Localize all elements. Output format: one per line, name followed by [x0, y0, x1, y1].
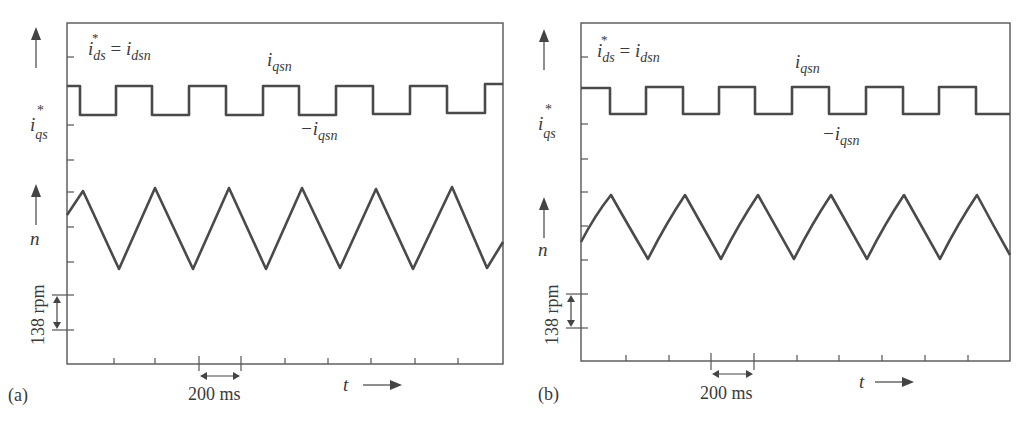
rpm-scale-marker: 138 rpm [28, 285, 61, 346]
rpm-scale-label: 138 rpm [28, 285, 48, 346]
time-scale-label: 200 ms [700, 383, 753, 403]
speed-triangle-wave [581, 195, 1010, 259]
time-scale-marker: 200 ms [188, 372, 241, 404]
iqs-square-wave [581, 87, 1010, 114]
time-scale-marker: 200 ms [700, 370, 753, 403]
svg-text:n: n [538, 239, 548, 260]
svg-text:t: t [343, 374, 349, 395]
speed-axis-label: n [30, 184, 41, 249]
speed-axis-label: n [538, 197, 549, 260]
svg-text:iqs: iqs [30, 114, 48, 142]
iqs-square-wave [67, 84, 503, 115]
svg-text:iqs: iqs [538, 113, 556, 141]
time-axis-label: t [859, 371, 914, 392]
plot-frame [581, 23, 1010, 361]
panel-label-b: (b) [538, 384, 559, 405]
iqsn-low-label: −iqsn [822, 123, 860, 148]
iqsn-high-label: iqsn [267, 49, 292, 74]
rpm-scale-label: 138 rpm [542, 285, 562, 346]
svg-text:*: * [37, 103, 44, 118]
speed-triangle-wave [67, 187, 503, 269]
iqsn-high-label: iqsn [795, 51, 820, 76]
svg-text:t: t [859, 371, 865, 392]
figure: iqs * n ids = idsn * iqsn −iqsn 138 rpm [0, 0, 1034, 429]
iqsn-low-label: −iqsn [300, 118, 338, 143]
y-ticks [566, 57, 588, 328]
iqs-axis-label: iqs * [538, 29, 556, 141]
time-scale-label: 200 ms [188, 384, 241, 404]
panel-a: iqs * n ids = idsn * iqsn −iqsn 138 rpm [8, 23, 503, 406]
svg-text:n: n [30, 228, 40, 249]
iqs-axis-label: iqs * [30, 27, 48, 142]
ids-star: * [601, 32, 608, 47]
plot-frame [67, 23, 503, 364]
svg-text:*: * [545, 102, 552, 117]
ids-star: * [92, 30, 99, 45]
panel-b: iqs * n ids = idsn * iqsn −iqsn 138 rpm [538, 23, 1010, 405]
time-axis-label: t [343, 374, 402, 395]
y-ticks [52, 57, 74, 330]
panel-label-a: (a) [8, 385, 28, 406]
